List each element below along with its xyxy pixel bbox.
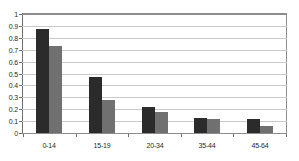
x-axis-tick-mark <box>233 134 234 137</box>
y-axis-tick-label: 0.2 <box>0 106 18 113</box>
bars-layer <box>23 14 286 133</box>
x-axis-tick-mark <box>128 134 129 137</box>
x-axis-tick-mark <box>23 134 24 137</box>
bar-group <box>142 14 168 133</box>
y-axis-tick-label: 1 <box>0 11 18 18</box>
bar-group <box>194 14 220 133</box>
bar <box>89 77 102 133</box>
x-axis-category-label: 15-19 <box>75 142 129 150</box>
y-axis-tick-label: 0.6 <box>0 59 18 66</box>
y-axis-tick-mark <box>19 38 22 39</box>
x-axis-category-label: 20-34 <box>128 142 182 150</box>
gridline-0 <box>22 133 287 134</box>
bar <box>36 29 49 133</box>
y-axis-tick-mark <box>19 14 22 15</box>
bar-group <box>89 14 115 133</box>
x-axis-category-label: 35-44 <box>180 142 234 150</box>
bar <box>194 118 207 133</box>
x-axis-tick-mark <box>286 134 287 137</box>
y-axis-tick-mark <box>19 133 22 134</box>
y-axis-tick-label: 0.8 <box>0 35 18 42</box>
y-axis-tick-mark <box>19 50 22 51</box>
y-axis-tick-mark <box>19 85 22 86</box>
y-axis-tick-mark <box>19 121 22 122</box>
y-axis-tick-label: 0 <box>0 130 18 137</box>
y-axis-tick-mark <box>19 74 22 75</box>
y-axis-tick-label: 0.4 <box>0 82 18 89</box>
bar-group <box>247 14 273 133</box>
y-axis-tick-label: 0.5 <box>0 71 18 78</box>
x-axis-category-label: 0-14 <box>22 142 76 150</box>
bar <box>260 126 273 133</box>
bar <box>247 119 260 133</box>
y-axis-tick-label: 0.7 <box>0 47 18 54</box>
bar <box>142 107 155 133</box>
bar <box>207 119 220 133</box>
y-axis-tick-label: 0.1 <box>0 118 18 125</box>
y-axis-tick-mark <box>19 26 22 27</box>
x-axis-tick-mark <box>181 134 182 137</box>
bar-group <box>36 14 62 133</box>
y-axis-tick-label: 0.3 <box>0 94 18 101</box>
bar <box>155 112 168 133</box>
y-axis-tick-label: 0.9 <box>0 23 18 30</box>
x-axis-category-label: 45-64 <box>233 142 287 150</box>
x-axis-tick-mark <box>76 134 77 137</box>
y-axis-tick-mark <box>19 62 22 63</box>
y-axis-tick-mark <box>19 109 22 110</box>
bar <box>102 100 115 133</box>
bar-chart-figure: 10.90.80.70.60.50.40.30.20.10 0-1415-192… <box>0 0 299 161</box>
y-axis-tick-mark <box>19 97 22 98</box>
bar <box>49 46 62 133</box>
